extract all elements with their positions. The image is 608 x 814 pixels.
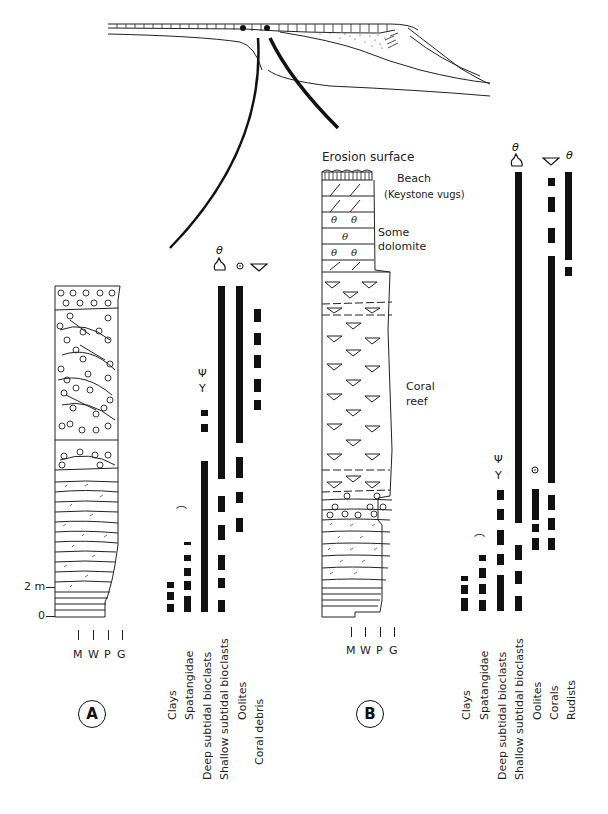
label-b-oolites: Oolites bbox=[531, 682, 544, 720]
occurrence-bar bbox=[497, 509, 504, 520]
b-texture-label-p: P bbox=[376, 644, 383, 657]
occurrence-bar bbox=[497, 490, 504, 500]
occurrence-bar bbox=[497, 575, 504, 611]
b-spatangid-icon: ⌒ bbox=[474, 531, 485, 547]
occurrence-bar bbox=[461, 598, 468, 611]
b-bioclast-icon-1: Ψ bbox=[494, 453, 503, 466]
b-coral-icon bbox=[542, 156, 560, 166]
b-texture-label-m: M bbox=[346, 644, 356, 657]
svg-text:θ: θ bbox=[351, 214, 357, 225]
b-texture-tick-g bbox=[394, 627, 395, 637]
label-b-rudists: Rudists bbox=[565, 680, 578, 720]
occurrence-bar bbox=[515, 172, 522, 523]
occurrence-bar bbox=[515, 571, 522, 584]
label-b-corals: Corals bbox=[548, 686, 561, 720]
b-texture-tick-w bbox=[365, 627, 366, 637]
b-texture-tick-m bbox=[351, 627, 352, 637]
occurrence-bar bbox=[548, 538, 555, 550]
occurrence-bar bbox=[548, 518, 555, 530]
occurrence-bar bbox=[479, 600, 486, 611]
svg-text:θ: θ bbox=[331, 214, 337, 225]
occurrence-bar bbox=[548, 197, 555, 212]
occurrence-bar bbox=[461, 585, 468, 594]
b-texture-tick-p bbox=[380, 627, 381, 637]
b-bioclast-icon-2: Y bbox=[495, 469, 502, 482]
occurrence-bar bbox=[497, 530, 504, 545]
svg-text:θ: θ bbox=[342, 231, 348, 242]
occurrence-bar bbox=[515, 596, 522, 611]
occurrence-bar bbox=[548, 256, 555, 483]
occurrence-bar bbox=[479, 568, 486, 578]
occurrence-bar bbox=[497, 554, 504, 565]
b-texture-label-g: G bbox=[389, 644, 398, 657]
label-b-deep-subtidal: Deep subtidal bioclasts bbox=[496, 652, 509, 780]
occurrence-bar bbox=[565, 172, 572, 260]
section-b-badge: B bbox=[356, 700, 384, 728]
label-b-clays: Clays bbox=[460, 690, 473, 720]
svg-text:θ: θ bbox=[331, 247, 337, 258]
label-b-spatangidae: Spatangidae bbox=[478, 651, 491, 720]
occurrence-bar bbox=[565, 267, 572, 276]
occurrence-bar bbox=[461, 576, 468, 581]
occurrence-bar bbox=[479, 584, 486, 594]
b-ooid-icon bbox=[530, 465, 540, 475]
occurrence-bar bbox=[548, 495, 555, 510]
occurrence-bar bbox=[548, 228, 555, 243]
b-texture-label-w: W bbox=[360, 644, 371, 657]
svg-text:θ: θ bbox=[351, 247, 357, 258]
label-b-shallow-subtidal: Shallow subtidal bioclasts bbox=[513, 638, 526, 780]
occurrence-bar bbox=[548, 178, 555, 186]
b-rudist-icon-2: θ bbox=[566, 149, 573, 162]
occurrence-bar bbox=[515, 545, 522, 560]
occurrence-bar bbox=[532, 489, 539, 520]
b-gastropod-icon bbox=[509, 153, 525, 167]
occurrence-bar bbox=[532, 524, 539, 532]
occurrence-bar bbox=[479, 555, 486, 561]
occurrence-bar bbox=[532, 538, 539, 550]
